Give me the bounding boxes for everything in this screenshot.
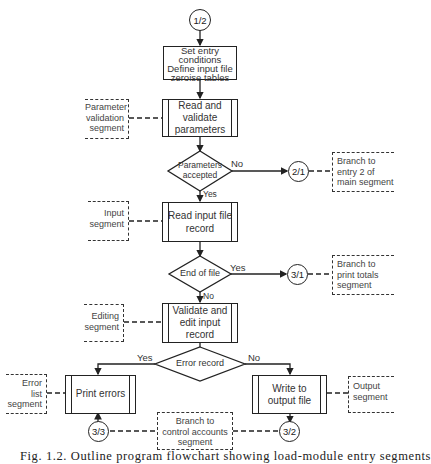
- error-list-line-1: Error: [6, 378, 42, 389]
- read-input-line-2: record: [168, 222, 232, 235]
- branch-control-line-3: segment: [162, 437, 228, 448]
- eof-yes-label: Yes: [230, 262, 246, 273]
- end-of-file-decision: End of file: [170, 268, 230, 279]
- validate-line-2: edit input: [173, 317, 228, 329]
- branch-totals-line-1: Branch to: [337, 259, 394, 270]
- param-note-line-1: Parameter: [85, 102, 124, 113]
- connector-3-3: 3/3: [88, 421, 109, 442]
- error-list-line-2: list: [6, 389, 42, 400]
- init-line-4: zeroise tables: [167, 73, 232, 82]
- error-list-line-3: segment: [6, 399, 42, 410]
- output-segment-note: Output segment: [348, 376, 394, 413]
- input-note-line-1: Input: [88, 208, 124, 219]
- parameter-validation-segment-note: Parameter validation segment: [85, 99, 129, 139]
- editing-segment-note: Editing segment: [84, 304, 124, 342]
- read-params-line-2: validate: [175, 112, 226, 124]
- validate-edit-input-record-box: Validate and edit input record: [162, 303, 238, 343]
- connector-3-3-label: 3/3: [92, 426, 105, 437]
- figure-caption: Fig. 1.2. Outline program flowchart show…: [20, 449, 431, 464]
- output-note-line-1: Output: [353, 381, 394, 392]
- read-params-line-3: parameters: [175, 124, 226, 136]
- init-process-box: Set entry conditions Define input file z…: [163, 46, 237, 80]
- write-output-line-2: output file: [268, 395, 311, 407]
- branch-entry2-line-1: Branch to: [337, 156, 394, 167]
- branch-entry2-line-3: main segment: [337, 177, 394, 188]
- read-validate-parameters-box: Read and validate parameters: [162, 99, 238, 137]
- branch-entry-2-note: Branch to entry 2 of main segment: [332, 152, 394, 192]
- connector-2-1: 2/1: [288, 161, 309, 182]
- print-errors-label: Print errors: [76, 388, 125, 401]
- branch-totals-line-2: print totals: [337, 270, 394, 281]
- connector-2-1-label: 2/1: [292, 166, 305, 177]
- branch-control-accounts-note: Branch to control accounts segment: [157, 412, 233, 450]
- branch-control-line-2: control accounts: [162, 427, 228, 438]
- read-params-line-1: Read and: [175, 100, 226, 112]
- validate-line-1: Validate and: [173, 305, 228, 317]
- parameters-accepted-decision: Parameters accepted: [170, 160, 230, 180]
- connector-3-1: 3/1: [287, 264, 308, 285]
- branch-entry2-line-2: entry 2 of: [337, 167, 394, 178]
- print-errors-box: Print errors: [65, 375, 136, 414]
- entry-connector-label: 1/2: [193, 15, 206, 26]
- entry-connector: 1/2: [189, 9, 211, 31]
- param-note-line-2: validation: [85, 113, 124, 124]
- error-no-label: No: [248, 352, 260, 363]
- editing-note-line-1: Editing: [84, 311, 119, 322]
- decision-params-line-2: accepted: [170, 170, 230, 180]
- connector-3-2: 3/2: [279, 421, 300, 442]
- param-note-line-3: segment: [85, 123, 124, 134]
- write-output-file-box: Write to output file: [252, 375, 327, 414]
- error-yes-label: Yes: [137, 352, 153, 363]
- connector-3-2-label: 3/2: [283, 426, 296, 437]
- branch-totals-line-3: segment: [337, 280, 394, 291]
- input-segment-note: Input segment: [88, 201, 129, 241]
- branch-print-totals-note: Branch to print totals segment: [332, 255, 394, 295]
- output-note-line-2: segment: [353, 392, 394, 403]
- branch-control-line-1: Branch to: [162, 416, 228, 427]
- decision-params-line-1: Parameters: [170, 160, 230, 170]
- validate-line-3: record: [173, 329, 228, 341]
- write-output-line-1: Write to: [268, 383, 311, 395]
- params-no-label: No: [231, 158, 243, 169]
- error-list-segment-note: Error list segment: [6, 374, 47, 414]
- read-input-file-record-box: Read input file record: [162, 202, 238, 242]
- read-input-line-1: Read input file: [168, 209, 232, 222]
- eof-no-label: No: [203, 291, 214, 301]
- error-record-decision: Error record: [165, 358, 235, 369]
- editing-note-line-2: segment: [84, 322, 119, 333]
- connector-3-1-label: 3/1: [291, 269, 304, 280]
- input-note-line-2: segment: [88, 219, 124, 230]
- params-yes-label: Yes: [203, 189, 217, 199]
